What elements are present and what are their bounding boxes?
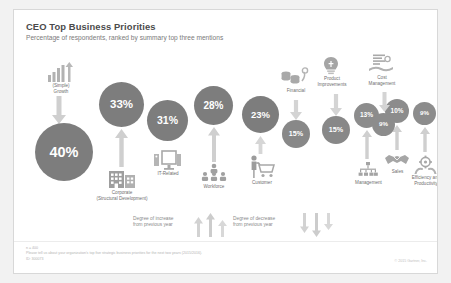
node-it-value: 31% (147, 100, 188, 141)
node-efficiency-value: 9% (413, 102, 436, 125)
legend-decrease-arrows (300, 213, 333, 237)
trend-up-arrow-management (362, 130, 372, 159)
page-title: CEO Top Business Priorities (26, 21, 156, 32)
handshake-icon (385, 153, 409, 167)
node-it-label: IT-Related (143, 171, 193, 177)
trend-down-arrow-growth (52, 96, 66, 124)
node-corporate-value: 33% (99, 82, 144, 127)
legend-increase-arrows (194, 213, 227, 237)
node-sales-label: Sales (380, 169, 415, 175)
node-workforce-label: Workforce (190, 184, 238, 190)
page-subtitle: Percentage of respondents, ranked by sum… (26, 34, 223, 41)
money-coins-icon (280, 67, 310, 87)
hand-document-icon (369, 54, 393, 74)
node-growth-label: (Simple) Growth (38, 83, 84, 94)
legend-decrease-label: Degree of decrease from previous year (233, 216, 295, 229)
footer-divider (14, 241, 437, 242)
lightbulb-head-icon (321, 56, 341, 75)
node-customer-value: 23% (242, 96, 279, 133)
node-efficiency-label: Efficiency and Productivity (402, 175, 438, 186)
node-cost-label: Cost Management (359, 75, 405, 86)
footer-copyright: © 2015 Gartner, Inc. (395, 259, 427, 264)
bar-chart-growth-icon (47, 62, 73, 82)
trend-up-arrow-customer (255, 136, 266, 154)
office-building-icon (108, 168, 136, 188)
node-growth-value: 40% (35, 123, 93, 181)
legend-increase-label: Degree of increase from previous year (133, 216, 191, 229)
footer-note: n = 400 Please tell us about your organi… (26, 246, 202, 262)
trend-up-arrow-efficiency (420, 127, 430, 152)
trend-up-arrow-workforce (208, 127, 220, 162)
screenshot-stage: CEO Top Business Priorities Percentage o… (0, 0, 451, 283)
trend-down-arrow-financial (290, 100, 302, 120)
node-product-label: Product Improvements (308, 76, 356, 87)
node-workforce-value: 28% (194, 86, 233, 125)
trend-down-arrow-product (330, 94, 342, 116)
node-cost-value: 9% (372, 113, 395, 136)
org-chart-icon (357, 162, 379, 178)
node-product-value: 15% (322, 116, 350, 144)
infographic-card: CEO Top Business Priorities Percentage o… (13, 9, 438, 274)
shopping-cart-person-icon (246, 155, 276, 179)
node-customer-label: Customer (239, 180, 285, 186)
node-financial-value: 15% (282, 120, 310, 148)
node-financial-label: Financial (274, 88, 318, 94)
trend-down-arrow-cost (379, 92, 390, 112)
computer-monitor-icon (153, 150, 182, 172)
trend-up-arrow-corporate (115, 129, 128, 167)
hands-gear-icon (414, 155, 437, 174)
node-management-label: Management (346, 180, 391, 186)
people-group-icon (199, 163, 229, 183)
node-corporate-label: Corporate (Structural Development) (92, 190, 152, 201)
